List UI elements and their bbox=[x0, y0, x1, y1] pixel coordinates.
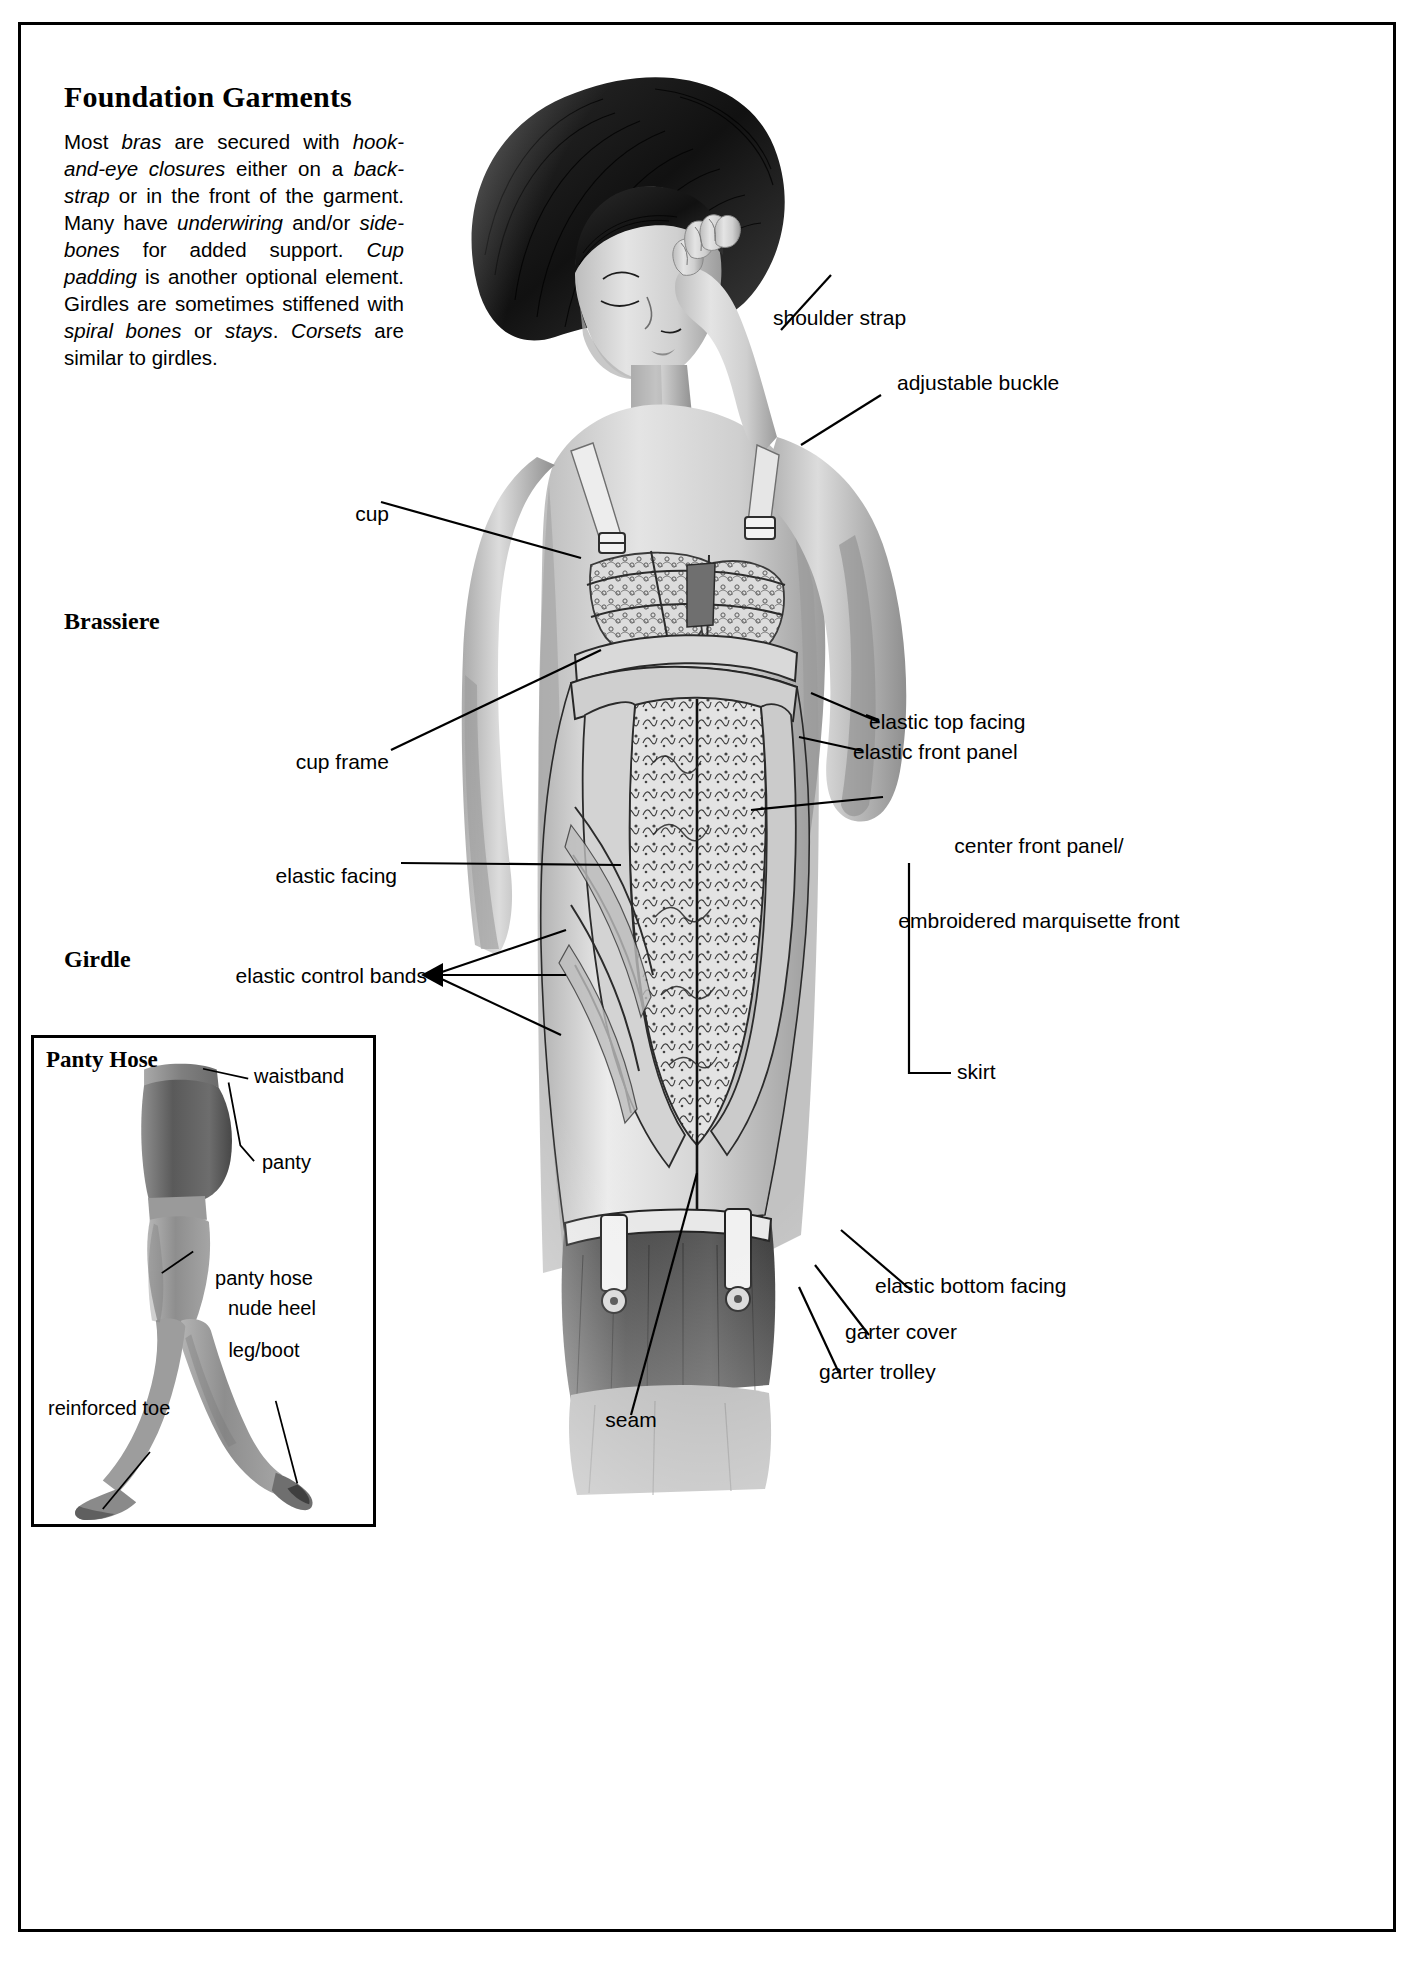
callout-elastic-control-bands: elastic control bands bbox=[213, 963, 427, 988]
pantyhose-callout-nude-heel: nude heel bbox=[228, 1296, 316, 1320]
page-border: Foundation Garments Most bras are secure… bbox=[18, 22, 1396, 1932]
callout-shoulder-strap: shoulder strap bbox=[773, 305, 906, 330]
section-heading-brassiere: Brassiere bbox=[64, 608, 160, 635]
page-title: Foundation Garments bbox=[64, 82, 404, 112]
pantyhose-callout-waistband: waistband bbox=[254, 1064, 344, 1088]
callout-elastic-top-facing: elastic top facing bbox=[869, 709, 1025, 734]
pantyhose-callout-panty: panty bbox=[262, 1150, 311, 1174]
section-heading-girdle: Girdle bbox=[64, 946, 131, 973]
callout-elastic-facing: elastic facing bbox=[257, 863, 397, 888]
callout-seam: seam bbox=[561, 1407, 701, 1432]
callout-cup: cup bbox=[337, 501, 389, 526]
pantyhose-inset-panel: Panty Hose waistband panty panty hose le… bbox=[31, 1035, 376, 1527]
pantyhose-callout-reinforced-toe: reinforced toe bbox=[48, 1396, 170, 1420]
callout-adjustable-buckle: adjustable buckle bbox=[897, 370, 1059, 395]
callout-garter-trolley: garter trolley bbox=[819, 1359, 936, 1384]
callout-skirt: skirt bbox=[957, 1059, 996, 1084]
intro-paragraph: Most bras are secured with hook-and-eye … bbox=[64, 128, 404, 371]
callout-elastic-bottom-facing: elastic bottom facing bbox=[875, 1273, 1066, 1298]
callout-cup-frame: cup frame bbox=[279, 749, 389, 774]
intro-block: Foundation Garments Most bras are secure… bbox=[64, 82, 404, 371]
pantyhose-callout-leg-boot-line1: panty hose bbox=[204, 1266, 324, 1290]
callout-elastic-front-panel: elastic front panel bbox=[853, 739, 1018, 764]
callout-center-front-panel-line2: embroidered marquisette front bbox=[819, 908, 1259, 933]
callout-garter-cover: garter cover bbox=[845, 1319, 957, 1344]
callout-center-front-panel: center front panel/ embroidered marquise… bbox=[819, 783, 1259, 983]
pantyhose-callout-leg-boot-line2: leg/boot bbox=[204, 1338, 324, 1362]
callout-center-front-panel-line1: center front panel/ bbox=[819, 833, 1259, 858]
